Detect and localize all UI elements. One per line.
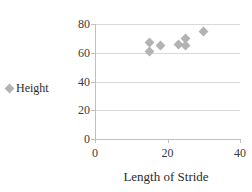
legend-label-height: Height — [16, 82, 49, 95]
scatter-chart: 020406080 02040 Length of Stride Height — [0, 0, 252, 192]
x-axis-tick-label: 0 — [80, 147, 110, 159]
x-axis-title: Length of Stride — [80, 170, 252, 184]
chart-legend: Height — [6, 82, 49, 95]
diamond-marker-icon — [5, 84, 15, 94]
x-axis-tick-labels: 02040 — [0, 0, 252, 192]
x-axis-tick-label: 40 — [225, 147, 252, 159]
x-axis-tick-label: 20 — [153, 147, 183, 159]
